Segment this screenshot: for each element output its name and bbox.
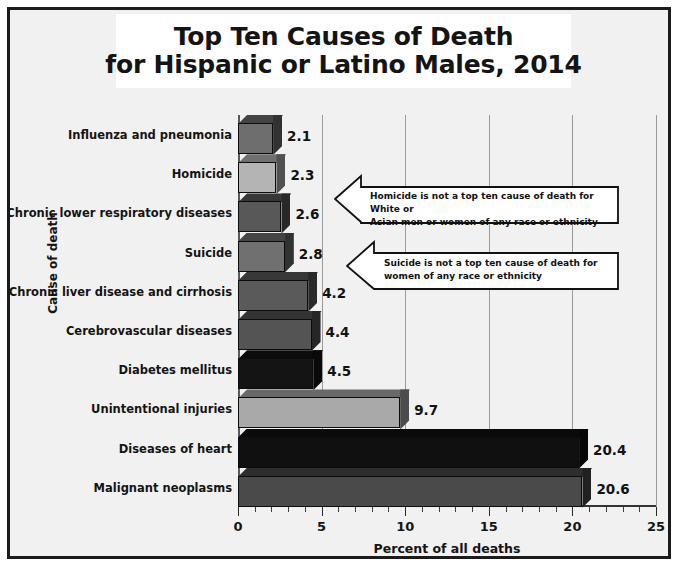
x-tick-minor-8	[372, 507, 373, 512]
bar-side-face	[276, 154, 285, 194]
x-tick-label-10: 10	[396, 519, 414, 534]
category-label-10: Malignant neoplasms	[94, 481, 232, 495]
chart-figure: Top Ten Causes of Death for Hispanic or …	[0, 0, 679, 567]
category-label-9: Diseases of heart	[119, 442, 232, 456]
x-axis: Percent of all deaths 0510152025	[238, 507, 656, 559]
bar-2	[238, 154, 286, 193]
category-label-8: Unintentional injuries	[91, 402, 232, 416]
bar-front-face	[238, 241, 285, 272]
bar-9	[238, 429, 589, 468]
x-tick-label-15: 15	[480, 519, 498, 534]
homicide-callout-line-1: Homicide is not a top ten cause of death…	[370, 190, 614, 216]
x-tick-label-20: 20	[563, 519, 581, 534]
suicide-callout: Suicide is not a top ten cause of death …	[346, 239, 620, 293]
bar-value-label-4: 2.8	[299, 246, 323, 262]
bar-front-face	[238, 476, 582, 507]
x-tick-minor-12	[439, 507, 440, 512]
x-tick-minor-17	[522, 507, 523, 512]
x-tick-minor-11	[422, 507, 423, 512]
bar-value-label-8: 9.7	[414, 402, 438, 418]
x-tick-major-5	[322, 507, 323, 516]
bar-side-face	[308, 272, 317, 312]
category-label-5: Chronic liver disease and cirrhosis	[9, 285, 232, 299]
x-tick-minor-23	[623, 507, 624, 512]
bar-value-label-3: 2.6	[295, 206, 319, 222]
homicide-callout: Homicide is not a top ten cause of death…	[334, 173, 620, 225]
category-label-1: Influenza and pneumonia	[68, 128, 232, 142]
bar-side-face	[312, 311, 321, 351]
x-tick-major-20	[572, 507, 573, 516]
bar-6	[238, 311, 322, 350]
bar-front-face	[238, 397, 400, 428]
bar-value-label-2: 2.3	[290, 167, 314, 183]
x-tick-minor-22	[606, 507, 607, 512]
category-label-7: Diabetes mellitus	[118, 363, 232, 377]
bar-value-label-5: 4.2	[322, 285, 346, 301]
x-tick-minor-7	[355, 507, 356, 512]
x-tick-minor-21	[589, 507, 590, 512]
x-tick-minor-9	[388, 507, 389, 512]
x-tick-minor-19	[556, 507, 557, 512]
x-tick-major-0	[238, 507, 239, 516]
bar-front-face	[238, 437, 579, 468]
bar-front-face	[238, 162, 276, 193]
bar-4	[238, 233, 295, 272]
bar-side-face	[313, 350, 322, 390]
x-tick-minor-16	[506, 507, 507, 512]
x-tick-minor-14	[472, 507, 473, 512]
bar-value-label-7: 4.5	[327, 363, 351, 379]
homicide-callout-text: Homicide is not a top ten cause of death…	[370, 190, 614, 229]
bar-front-face	[238, 358, 313, 389]
x-tick-major-25	[656, 507, 657, 516]
bar-8	[238, 389, 410, 428]
chart-frame: Top Ten Causes of Death for Hispanic or …	[7, 7, 671, 559]
x-tick-minor-24	[639, 507, 640, 512]
category-label-3: Chronic lower respiratory diseases	[7, 206, 232, 220]
bar-side-face	[582, 468, 591, 508]
x-tick-label-0: 0	[233, 519, 242, 534]
x-tick-major-10	[405, 507, 406, 516]
chart-title-line-2: for Hispanic or Latino Males, 2014	[105, 51, 581, 79]
x-tick-minor-1	[255, 507, 256, 512]
x-tick-minor-6	[338, 507, 339, 512]
category-label-6: Cerebrovascular diseases	[66, 324, 232, 338]
bar-7	[238, 350, 323, 389]
bar-side-face	[579, 429, 588, 469]
homicide-callout-line-2: Asian men or women of any race or ethnic…	[370, 216, 614, 229]
bar-side-face	[273, 115, 282, 155]
chart-title: Top Ten Causes of Death for Hispanic or …	[116, 14, 571, 88]
bar-front-face	[238, 319, 312, 350]
bar-5	[238, 272, 318, 311]
bar-side-face	[285, 233, 294, 273]
bar-side-face	[281, 193, 290, 233]
x-tick-minor-18	[539, 507, 540, 512]
suicide-callout-text: Suicide is not a top ten cause of death …	[384, 257, 612, 283]
category-label-2: Homicide	[172, 167, 232, 181]
x-tick-label-5: 5	[317, 519, 326, 534]
x-tick-label-25: 25	[647, 519, 665, 534]
x-tick-major-15	[489, 507, 490, 516]
bar-1	[238, 115, 283, 154]
bar-value-label-10: 20.6	[596, 481, 629, 497]
bar-front-face	[238, 123, 273, 154]
x-tick-minor-2	[271, 507, 272, 512]
x-tick-minor-13	[455, 507, 456, 512]
bar-front-face	[238, 201, 281, 232]
category-label-list: Influenza and pneumoniaHomicideChronic l…	[10, 115, 232, 507]
x-tick-minor-3	[288, 507, 289, 512]
bar-value-label-9: 20.4	[593, 442, 626, 458]
bar-side-face	[400, 389, 409, 429]
x-axis-title: Percent of all deaths	[238, 541, 656, 556]
suicide-callout-line-2: women of any race or ethnicity	[384, 270, 612, 283]
suicide-callout-line-1: Suicide is not a top ten cause of death …	[384, 257, 612, 270]
x-tick-minor-4	[305, 507, 306, 512]
bar-front-face	[238, 280, 308, 311]
bar-10	[238, 468, 592, 507]
bar-value-label-6: 4.4	[326, 324, 350, 340]
gridline-25	[656, 115, 657, 507]
bar-3	[238, 193, 291, 232]
bar-value-label-1: 2.1	[287, 128, 311, 144]
category-label-4: Suicide	[185, 246, 232, 260]
chart-title-line-1: Top Ten Causes of Death	[174, 23, 514, 51]
